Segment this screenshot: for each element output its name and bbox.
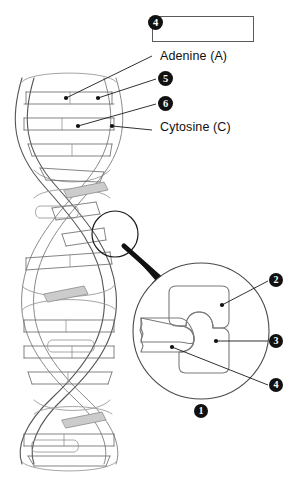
callout-bullet-5[interactable]: 5	[158, 71, 173, 86]
detail-dot-2	[220, 303, 224, 307]
magnification-circle	[0, 0, 302, 489]
callout-bullet-3[interactable]: 3	[269, 334, 283, 348]
detail-dot-3	[214, 339, 218, 343]
label-adenine: Adenine (A)	[160, 49, 227, 63]
magnifier-outline	[133, 263, 269, 399]
label-cytosine: Cytosine (C)	[160, 120, 231, 134]
detail-dot-4	[170, 345, 174, 349]
callout-bullet-4-detail[interactable]: 4	[269, 378, 283, 392]
callout-bullet-1[interactable]: 1	[194, 404, 208, 418]
callout-bullet-4-top[interactable]: 4	[148, 15, 163, 30]
worksheet-canvas: Adenine (A) Cytosine (C) 4 5 6 1 2 3 4	[0, 0, 302, 489]
callout-bullet-6[interactable]: 6	[158, 96, 173, 111]
callout-bullet-2[interactable]: 2	[269, 273, 283, 287]
